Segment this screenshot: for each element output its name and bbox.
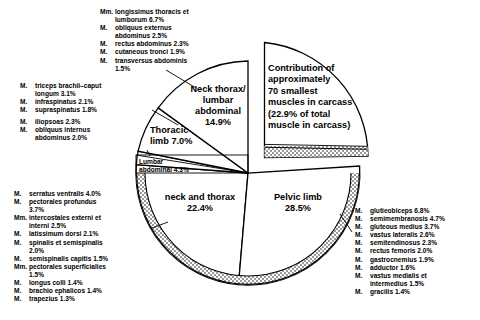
list-item: M.brachio ephalicos 1.4% <box>14 287 154 295</box>
contribution-line-2: approximately <box>268 74 364 85</box>
list-item: M.transversus abdominis <box>100 57 240 65</box>
list-item-label: semimembranosis 4.7% <box>370 215 480 223</box>
list-item-prefix: M. <box>355 288 370 296</box>
slice-label-line-2: limb 7.0% <box>150 136 220 147</box>
slice-label-line-3: abdominal <box>176 106 260 117</box>
list-item: M.longus colli 1.4% <box>14 279 154 287</box>
list-item-label: adductor 1.6% <box>370 264 480 272</box>
list-item-continuation: 3.7% <box>14 206 154 214</box>
list-item-label: semitendinosus 2.3% <box>370 239 480 247</box>
list-item-label: pectorales profundus <box>29 198 154 206</box>
list-item-prefix: M. <box>355 231 370 239</box>
contribution-line-5: (22.9% of total <box>268 109 364 120</box>
list-item-prefix: M. <box>14 198 29 206</box>
list-item-continuation: intermedius 1.5% <box>355 280 480 288</box>
list-item-continuation: longum 3.1% <box>20 90 150 98</box>
lumbar-abdominal-muscle-list: Mm.longissimus thoracis etlumborum 6.7%M… <box>100 8 240 73</box>
list-item-label: glutieobiceps 6.8% <box>370 207 480 215</box>
list-item-continuation: 1.5% <box>14 271 154 279</box>
list-item-label: vastus medialis et <box>370 272 480 280</box>
list-item-prefix: M. <box>14 230 29 238</box>
list-item: M.serratus ventralis 4.0% <box>14 190 154 198</box>
list-item: M.rectus femoris 2.0% <box>355 247 480 255</box>
list-item-label: rectus abdominus 2.3% <box>115 40 240 48</box>
thoracic-limb-muscle-list: M.triceps brachii–caputlongum 3.1%M.infr… <box>20 82 150 114</box>
list-item: M.pectorales profundus <box>14 198 154 206</box>
list-item: M.semimembranosis 4.7% <box>355 215 480 223</box>
slice-label-line-1: Pelvic limb <box>255 192 341 203</box>
list-item: M.infraspinatus 2.1% <box>20 98 150 106</box>
list-item-prefix: M. <box>20 118 35 126</box>
slice-label-thoracic-limb: Thoracic limb 7.0% <box>150 125 220 147</box>
list-item-label: semispinalis capitis 1.5% <box>29 255 154 263</box>
list-item-continuation: interni 2.5% <box>14 222 154 230</box>
list-item-label: latissimum dorsi 2.1% <box>29 230 154 238</box>
list-item-label: gluteous medius 3.7% <box>370 223 480 231</box>
slice-label-line-2: 22.4% <box>150 203 250 214</box>
list-item-continuation: abdominus 2.5% <box>100 32 240 40</box>
list-item-prefix: M. <box>14 287 29 295</box>
list-item-prefix: M. <box>100 24 115 32</box>
list-item: M.semispinalis capitis 1.5% <box>14 255 154 263</box>
list-item-continuation: 2.0% <box>14 247 154 255</box>
list-item-label: longissimus thoracis et <box>115 8 240 16</box>
list-item-label: cutaneous tronci 1.9% <box>115 48 240 56</box>
list-item-label: rectus femoris 2.0% <box>370 247 480 255</box>
list-item: Mm.longissimus thoracis et <box>100 8 240 16</box>
list-item-continuation: abdominus 2.0% <box>20 134 150 142</box>
neck-and-thorax-muscle-list: M.serratus ventralis 4.0%M.pectorales pr… <box>14 190 154 303</box>
list-item: M.gluteous medius 3.7% <box>355 223 480 231</box>
list-item-prefix: Mm. <box>14 263 29 271</box>
list-item-label: gastrocnemius 1.9% <box>370 256 480 264</box>
list-item: M.adductor 1.6% <box>355 264 480 272</box>
slice-label-smallest-muscles: Contribution of approximately 70 smalles… <box>268 63 364 131</box>
list-item-continuation: 1.5% <box>100 65 240 73</box>
list-item: M.semitendinosus 2.3% <box>355 239 480 247</box>
list-item-prefix: M. <box>355 207 370 215</box>
list-item: M.gastrocnemius 1.9% <box>355 256 480 264</box>
slice-label-line-1: Thoracic <box>150 125 220 136</box>
list-item-label: transversus abdominis <box>115 57 240 65</box>
list-item-prefix: M. <box>355 272 370 280</box>
list-item: M.cutaneous tronci 1.9% <box>100 48 240 56</box>
list-item: M.gracilis 1.4% <box>355 288 480 296</box>
list-item-prefix: M. <box>14 279 29 287</box>
list-item-prefix: M. <box>100 40 115 48</box>
list-item: M.vastus lateralis 2.6% <box>355 231 480 239</box>
list-item: M.latissimum dorsi 2.1% <box>14 230 154 238</box>
list-item-label: obliquus internus <box>35 126 150 134</box>
list-item-prefix: M. <box>20 106 35 114</box>
list-item: M.spinalis et semispinalis <box>14 239 154 247</box>
list-item-label: trapezius 1.3% <box>29 295 154 303</box>
list-item-label: obliquus externus <box>115 24 240 32</box>
list-item-prefix: M. <box>355 256 370 264</box>
list-item-prefix: M. <box>20 98 35 106</box>
slice-label-neck-and-thorax: neck and thorax 22.4% <box>150 192 250 214</box>
list-item-prefix: M. <box>14 295 29 303</box>
list-item: M.glutieobiceps 6.8% <box>355 207 480 215</box>
list-item: M.triceps brachii–caput <box>20 82 150 90</box>
lumbar-abdominal-small-list: M.iliopsoas 2.3%M.obliquus internusabdom… <box>20 118 150 142</box>
list-item-label: serratus ventralis 4.0% <box>29 190 154 198</box>
list-item-prefix: M. <box>100 48 115 56</box>
list-item: M.supraspinatus 1.8% <box>20 106 150 114</box>
list-item-label: brachio ephalicos 1.4% <box>29 287 154 295</box>
list-item: M.obliquus externus <box>100 24 240 32</box>
list-item-prefix: M. <box>355 215 370 223</box>
contribution-line-6: muscle in carcass) <box>268 120 364 131</box>
list-item-prefix: M. <box>20 126 35 134</box>
slice-label-line-1: Neck thorax/ <box>176 84 260 95</box>
slice-label-pelvic-limb: Pelvic limb 28.5% <box>255 192 341 214</box>
list-item-prefix: M. <box>14 190 29 198</box>
list-item: M.trapezius 1.3% <box>14 295 154 303</box>
list-item-label: vastus lateralis 2.6% <box>370 231 480 239</box>
slice-label-line-1: neck and thorax <box>150 192 250 203</box>
list-item: M.iliopsoas 2.3% <box>20 118 150 126</box>
list-item-label: longus colli 1.4% <box>29 279 154 287</box>
list-item-label: spinalis et semispinalis <box>29 239 154 247</box>
list-item-prefix: M. <box>355 239 370 247</box>
list-item-label: infraspinatus 2.1% <box>35 98 150 106</box>
list-item-prefix: M. <box>14 255 29 263</box>
list-item-label: gracilis 1.4% <box>370 288 480 296</box>
list-item: M.rectus abdominus 2.3% <box>100 40 240 48</box>
